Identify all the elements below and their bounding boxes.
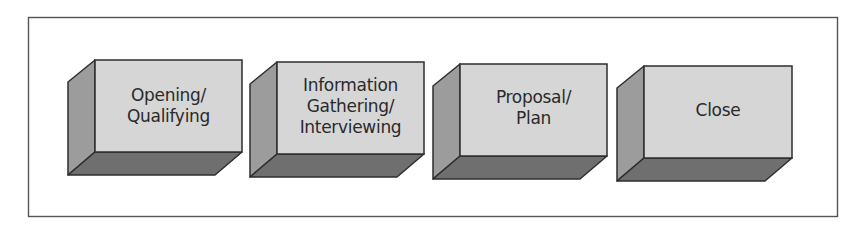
step-label-proposal-plan: Proposal/ Plan (460, 62, 607, 154)
sales-process-diagram: Opening/ Qualifying Information Gatherin… (0, 0, 866, 225)
step-label-information-gathering: Information Gathering/ Interviewing (277, 60, 424, 152)
step-label-close: Close (644, 64, 792, 156)
box-bottom-face (250, 154, 424, 177)
step-label-opening-qualifying: Opening/ Qualifying (95, 60, 242, 152)
box-bottom-face (68, 152, 242, 175)
box-bottom-face (433, 156, 607, 179)
box-bottom-face (617, 158, 792, 181)
